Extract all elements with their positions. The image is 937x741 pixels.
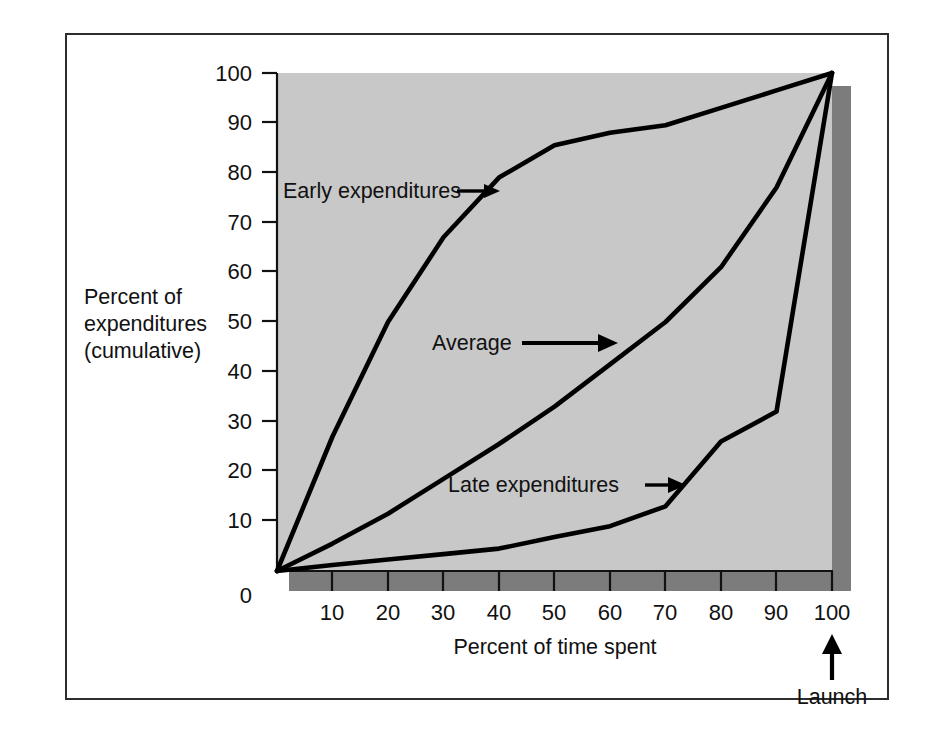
y-axis-title-line3: (cumulative) [84, 339, 201, 363]
y-axis-title-line2: expenditures [84, 312, 207, 336]
x-tick-label-20: 20 [376, 600, 400, 625]
y-tick-label-90: 90 [228, 110, 252, 135]
x-tick-label-100: 100 [814, 600, 851, 625]
plot-shadow-right [832, 86, 851, 590]
y-axis-title-line1: Percent of [84, 285, 182, 309]
x-tick-label-70: 70 [653, 600, 677, 625]
x-tick-label-30: 30 [431, 600, 455, 625]
x-tick-label-50: 50 [542, 600, 566, 625]
x-tick-label-40: 40 [487, 600, 511, 625]
plot-shadow-bottom [289, 572, 851, 591]
launch-label: Launch [797, 685, 868, 709]
annotation-label-early: Early expenditures [283, 179, 461, 203]
y-tick-label-30: 30 [228, 409, 252, 434]
y-tick-label-10: 10 [228, 508, 252, 533]
y-tick-label-20: 20 [228, 458, 252, 483]
annotation-label-average: Average [432, 331, 512, 355]
x-tick-label-10: 10 [320, 600, 344, 625]
y-tick-label-50: 50 [228, 309, 252, 334]
launch-up-arrow-icon [822, 634, 842, 680]
y-tick-label-80: 80 [228, 160, 252, 185]
annotation-label-late: Late expenditures [448, 473, 619, 497]
x-axis-title: Percent of time spent [453, 635, 656, 659]
figure-container: 100 90 80 70 60 50 40 30 20 10 0 10 20 3… [0, 0, 937, 741]
y-axis-ticks [262, 73, 277, 520]
line-chart: 100 90 80 70 60 50 40 30 20 10 0 10 20 3… [0, 0, 937, 741]
y-tick-label-60: 60 [228, 259, 252, 284]
x-tick-label-80: 80 [709, 600, 733, 625]
x-tick-label-60: 60 [598, 600, 622, 625]
y-tick-label-0: 0 [240, 583, 252, 608]
y-tick-label-100: 100 [215, 61, 252, 86]
y-tick-label-70: 70 [228, 210, 252, 235]
y-tick-label-40: 40 [228, 359, 252, 384]
x-tick-label-90: 90 [764, 600, 788, 625]
